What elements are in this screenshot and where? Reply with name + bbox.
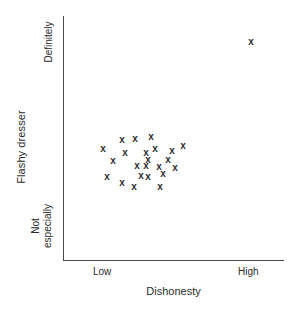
data-point: x	[156, 181, 165, 192]
data-point: x	[118, 177, 127, 188]
data-point: x	[118, 134, 127, 145]
x-axis-title: Dishonesty	[63, 285, 284, 297]
y-axis-line	[63, 16, 64, 261]
x-axis-tick-label-high: High	[238, 266, 259, 277]
data-point: x	[131, 133, 140, 144]
data-point: x	[130, 181, 139, 192]
x-axis-tick-label-low: Low	[93, 266, 111, 277]
y-axis-tick-label-definitely: Definitely	[43, 7, 55, 77]
data-point: x	[247, 36, 256, 47]
data-point: x	[99, 143, 108, 154]
data-point: x	[121, 147, 130, 158]
data-point: x	[164, 154, 173, 165]
scatter-plot-figure: Flashy dresser Definitely Not especially…	[0, 0, 287, 311]
y-axis-tick-label-line2: especially	[42, 189, 54, 263]
data-point: x	[147, 131, 156, 142]
y-axis-title: Flashy dresser	[15, 87, 29, 207]
data-point: x	[144, 154, 153, 165]
data-point: x	[151, 143, 160, 154]
data-point: x	[159, 168, 168, 179]
data-point: x	[179, 140, 188, 151]
x-axis-line	[63, 260, 284, 261]
data-point: x	[103, 171, 112, 182]
y-axis-tick-label-not-especially: Not especially	[30, 189, 56, 263]
data-point: x	[137, 170, 146, 181]
y-axis-tick-label-line1: Not	[30, 189, 42, 263]
data-point: x	[109, 155, 118, 166]
